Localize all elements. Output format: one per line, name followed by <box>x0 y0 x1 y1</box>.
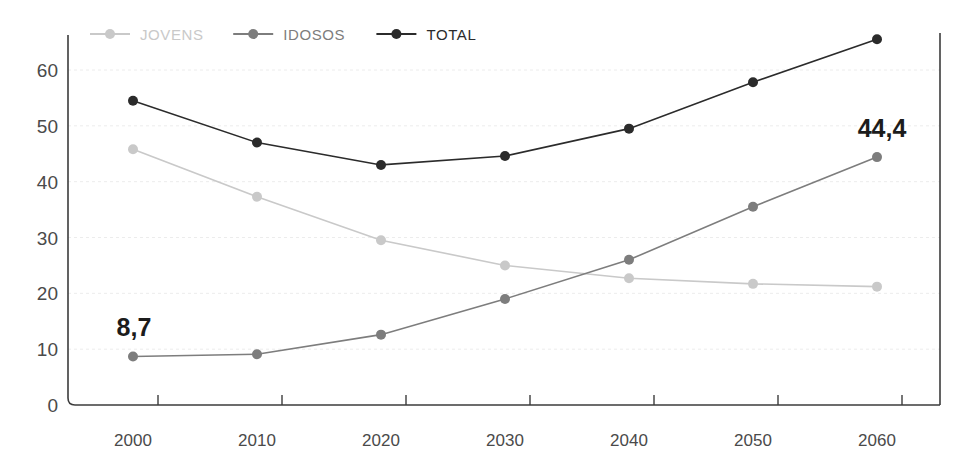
gridlines <box>68 70 940 349</box>
data-point <box>872 34 882 44</box>
data-point <box>624 124 634 134</box>
y-axis-tick-label: 10 <box>37 339 58 360</box>
line-chart: 6050403020100 20002010202020302040205020… <box>0 0 976 474</box>
data-point <box>376 235 386 245</box>
data-point <box>748 202 758 212</box>
data-point <box>748 77 758 87</box>
data-point <box>128 96 138 106</box>
data-point <box>376 160 386 170</box>
legend-item-total[interactable]: TOTAL <box>376 26 476 43</box>
data-point <box>748 279 758 289</box>
y-axis-tick-label: 40 <box>37 172 58 193</box>
legend-label: JOVENS <box>140 26 204 43</box>
legend-marker-dot <box>105 29 115 39</box>
chart-legend: JOVENSIDOSOSTOTAL <box>90 26 476 43</box>
series-line <box>133 39 877 165</box>
data-point <box>624 255 634 265</box>
x-axis-labels: 2000201020202030204020502060 <box>114 431 896 450</box>
data-point <box>128 351 138 361</box>
legend-label: IDOSOS <box>283 26 345 43</box>
legend-item-idosos[interactable]: IDOSOS <box>233 26 345 43</box>
legend-marker-dot <box>391 29 401 39</box>
x-axis-tick-label: 2020 <box>362 431 400 450</box>
legend-label: TOTAL <box>426 26 476 43</box>
data-point <box>252 349 262 359</box>
value-annotation: 44,4 <box>858 114 907 142</box>
y-axis-tick-label: 20 <box>37 283 58 304</box>
y-axis-labels: 6050403020100 <box>37 60 58 416</box>
data-point <box>624 273 634 283</box>
series-idosos <box>128 152 882 361</box>
data-point <box>252 138 262 148</box>
data-point <box>128 144 138 154</box>
x-axis-tick-label: 2060 <box>858 431 896 450</box>
series-jovens <box>128 144 882 291</box>
y-axis-tick-label: 0 <box>47 395 58 416</box>
data-point <box>872 282 882 292</box>
x-axis-tick-label: 2010 <box>238 431 276 450</box>
value-annotation: 8,7 <box>117 313 152 341</box>
value-annotations: 8,744,4 <box>117 114 907 341</box>
data-point <box>500 294 510 304</box>
chart-container: 6050403020100 20002010202020302040205020… <box>0 0 976 474</box>
x-axis-tick-label: 2040 <box>610 431 648 450</box>
data-point <box>500 260 510 270</box>
x-axis-tick-label: 2030 <box>486 431 524 450</box>
y-axis-tick-label: 30 <box>37 228 58 249</box>
data-series <box>128 34 882 361</box>
legend-item-jovens[interactable]: JOVENS <box>90 26 204 43</box>
x-axis-tick-label: 2000 <box>114 431 152 450</box>
data-point <box>376 330 386 340</box>
legend-marker-dot <box>248 29 258 39</box>
data-point <box>252 192 262 202</box>
x-axis-tick-label: 2050 <box>734 431 772 450</box>
y-axis-tick-label: 60 <box>37 60 58 81</box>
series-line <box>133 157 877 356</box>
data-point <box>500 151 510 161</box>
x-axis-tickmarks <box>158 395 902 405</box>
axis-left-bottom <box>68 35 940 405</box>
y-axis-tick-label: 50 <box>37 116 58 137</box>
data-point <box>872 152 882 162</box>
series-total <box>128 34 882 170</box>
